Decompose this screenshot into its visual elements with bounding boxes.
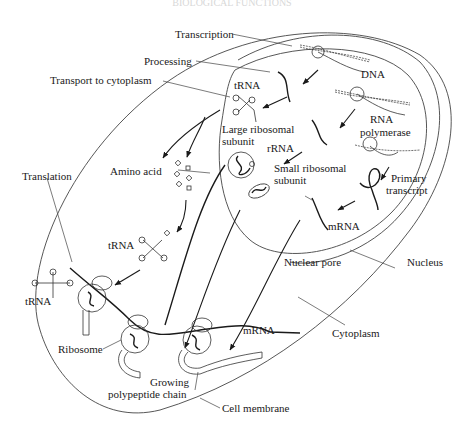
faded-header: BIOLOGICAL FUNCTIONS <box>172 0 291 8</box>
label-mrna-cyto: mRNA <box>243 324 275 336</box>
label-transport: Transport to cytoplasm <box>50 74 152 86</box>
label-primary-transcript-2: transcript <box>386 184 428 196</box>
trna-nucleus-shape <box>233 95 256 122</box>
amino-acids <box>174 160 192 190</box>
primary-transcript-strand <box>360 169 380 210</box>
ribosome-1 <box>78 276 112 335</box>
label-large-subunit-2: subunit <box>222 135 254 147</box>
small-ribosomal-subunit <box>246 181 271 201</box>
large-ribosomal-subunit <box>228 152 255 178</box>
label-trna-nucleus: tRNA <box>234 79 260 91</box>
label-nuclear-pore: Nuclear pore <box>284 256 341 268</box>
label-cytoplasm: Cytoplasm <box>332 327 380 339</box>
trna-cyto-shape <box>139 230 170 261</box>
label-rrna: rRNA <box>267 142 294 154</box>
transport-path-1 <box>165 165 225 325</box>
label-rna-polymerase: RNA <box>370 113 393 125</box>
label-nucleus: Nucleus <box>407 256 443 268</box>
label-trna-left: tRNA <box>25 295 51 307</box>
label-small-subunit-2: subunit <box>274 174 306 186</box>
label-ribosome: Ribosome <box>58 343 103 355</box>
label-cell-membrane: Cell membrane <box>222 402 290 414</box>
processed-rna <box>278 72 290 102</box>
label-dna: DNA <box>361 68 385 80</box>
protein-synthesis-diagram: BIOLOGICAL FUNCTIONS <box>0 0 465 434</box>
dna-helix-2 <box>335 87 410 115</box>
label-processing: Processing <box>144 55 192 67</box>
label-amino-acid: Amino acid <box>110 165 162 177</box>
label-trna-cyto: tRNA <box>108 239 134 251</box>
label-primary-transcript: Primary <box>391 172 427 184</box>
label-rna-polymerase-2: polymerase <box>360 126 411 138</box>
label-growing: Growing <box>150 376 190 388</box>
rna-fragment <box>312 120 327 145</box>
dna-helix-3 <box>355 137 420 155</box>
label-translation: Translation <box>22 170 72 182</box>
mrna-strand-nucleus <box>312 198 328 230</box>
ribosome-2 <box>119 315 149 378</box>
label-polypeptide-chain: polypeptide chain <box>108 388 187 400</box>
label-mrna-nucleus: mRNA <box>328 220 360 232</box>
label-large-subunit: Large ribosomal <box>222 123 294 135</box>
label-small-subunit: Small ribosomal <box>274 162 346 174</box>
label-transcription: Transcription <box>175 28 234 40</box>
